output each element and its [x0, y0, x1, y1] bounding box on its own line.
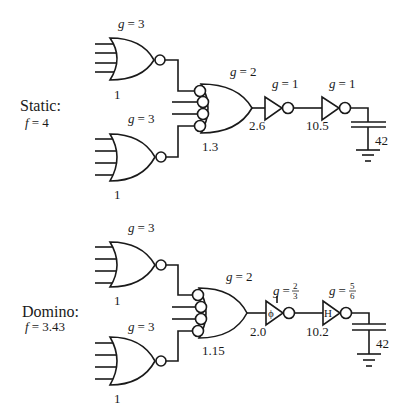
domino-nand-size: 1.15: [202, 343, 225, 358]
static-inv1-size: 2.6: [249, 118, 266, 133]
domino-inv2-g-num: 5: [350, 281, 355, 291]
ground-icon: [357, 354, 381, 366]
inversion-bubble-icon: [156, 260, 166, 270]
static-inv2-size: 10.5: [306, 118, 329, 133]
static-f-label: f= 4: [25, 115, 49, 130]
domino-nor-bottom-g: g= 3: [128, 319, 155, 334]
domino-title: Domino:: [22, 303, 79, 320]
static-inv1-g: g= 1: [272, 76, 299, 91]
domino-inv2-g: g=: [329, 283, 346, 298]
static-nand: g= 2 1.3: [195, 64, 257, 154]
static-nor-top-g: g= 3: [118, 16, 145, 31]
domino-inv1-size: 2.0: [250, 324, 266, 339]
static-load-capacitor: 42: [351, 108, 388, 161]
domino-nand-g: g= 2: [226, 269, 253, 284]
static-nor-bottom: g= 3 1: [95, 111, 166, 202]
domino-inv2: H g= 5 6 10.2: [306, 281, 356, 339]
static-title: Static:: [20, 97, 61, 114]
inversion-bubble-icon: [155, 55, 165, 65]
logic-effort-diagram: Static: f= 4 g= 3 1 g= 3 1: [0, 0, 408, 418]
static-inv2: g= 1 10.5: [306, 76, 356, 133]
domino-nor-top-size: 1: [114, 293, 121, 308]
domino-nor-top-g: g= 3: [128, 220, 155, 235]
domino-inv2-size: 10.2: [306, 324, 329, 339]
domino-nor-top: g= 3 1: [95, 220, 166, 308]
static-inv1: g= 1 2.6: [249, 76, 299, 133]
domino-inv1-g: g=: [273, 283, 290, 298]
static-nand-g: g= 2: [230, 64, 257, 79]
domino-nor-bottom: g= 3 1: [95, 319, 166, 406]
inversion-bubble-icon: [156, 152, 166, 162]
domino-inv1-g-num: 2: [293, 281, 298, 291]
domino-load-capacitor: 42: [352, 313, 389, 366]
domino-f-label: f= 3.43: [25, 319, 65, 334]
domino-nor-bottom-size: 1: [114, 391, 121, 406]
domino-inv2-g-den: 6: [350, 291, 355, 301]
domino-inv1: ϕ g= 2 3 2.0: [250, 281, 299, 339]
h-symbol: H: [324, 307, 332, 319]
domino-load-value: 42: [376, 336, 389, 351]
ground-icon: [356, 150, 380, 161]
static-nand-size: 1.3: [202, 139, 218, 154]
static-inv2-g: g= 1: [329, 76, 356, 91]
static-load-value: 42: [375, 133, 388, 148]
static-nor-bottom-g: g= 3: [128, 111, 155, 126]
domino-nand: g= 2 1.15: [193, 269, 253, 358]
static-nor-top-size: 1: [114, 87, 121, 102]
static-nor-top: g= 3 1: [95, 16, 165, 102]
domino-inv1-g-den: 3: [293, 291, 298, 301]
inversion-bubble-icon: [156, 356, 166, 366]
phi-symbol: ϕ: [268, 307, 274, 319]
domino-section: Domino: f= 3.43 g= 3 1 g= 3 1: [22, 220, 389, 406]
static-section: Static: f= 4 g= 3 1 g= 3 1: [20, 16, 388, 202]
static-nor-bottom-size: 1: [114, 187, 121, 202]
